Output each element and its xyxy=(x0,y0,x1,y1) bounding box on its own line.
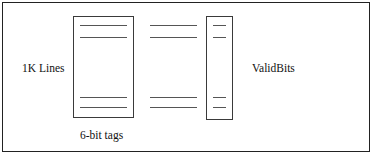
valid-bit-mark xyxy=(213,25,226,26)
valid-bits-box xyxy=(206,16,233,120)
label-1k-lines: 1K Lines xyxy=(22,62,64,75)
tag-row-mark xyxy=(80,107,127,108)
valid-bit-mark xyxy=(213,37,226,38)
middle-row-mark xyxy=(150,107,197,108)
tag-array-box xyxy=(73,16,134,118)
middle-row-mark xyxy=(150,97,197,98)
label-validbits: ValidBits xyxy=(252,62,295,75)
valid-bit-mark xyxy=(213,97,226,98)
tag-row-mark xyxy=(80,25,127,26)
cache-structure-figure: 1K Lines ValidBits 6-bit tags xyxy=(0,0,377,160)
tag-row-mark xyxy=(80,97,127,98)
middle-row-mark xyxy=(150,37,197,38)
label-6-bit-tags: 6-bit tags xyxy=(80,129,123,142)
middle-row-mark xyxy=(150,25,197,26)
valid-bit-mark xyxy=(213,107,226,108)
tag-row-mark xyxy=(80,37,127,38)
